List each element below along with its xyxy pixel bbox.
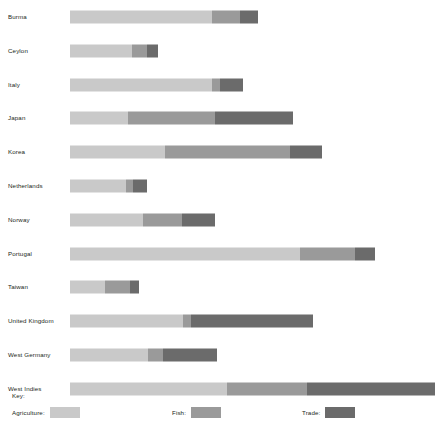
bar-segment-agriculture — [70, 112, 128, 125]
bar-row-label: Taiwan — [8, 283, 66, 291]
bar-segment-agriculture — [70, 349, 148, 362]
stacked-bar-chart: BurmaCeylonItalyJapanKoreaNetherlandsNor… — [0, 0, 435, 434]
bar-row-label: Netherlands — [8, 182, 66, 190]
bar-segment-fish — [126, 180, 133, 193]
bar-row-italy: Italy — [0, 68, 435, 102]
bar-segment-agriculture — [70, 11, 212, 24]
bar-segment-agriculture — [70, 44, 132, 57]
bar-segment-trade — [290, 146, 322, 159]
bar-row-japan: Japan — [0, 101, 435, 135]
bar-track — [70, 315, 313, 328]
bar-segment-trade — [355, 247, 375, 260]
bar-segment-trade — [215, 112, 293, 125]
legend-swatch-trade — [325, 407, 355, 418]
bar-segment-fish — [212, 11, 240, 24]
bar-segment-agriculture — [70, 146, 165, 159]
bar-track — [70, 281, 139, 294]
bar-row-united-kingdom: United Kingdom — [0, 304, 435, 338]
chart-legend: Key: Agriculture: Fish: Trade: — [0, 390, 435, 434]
bar-segment-agriculture — [70, 247, 300, 260]
bar-segment-agriculture — [70, 78, 212, 91]
bar-segment-agriculture — [70, 315, 183, 328]
bar-row-portugal: Portugal — [0, 237, 435, 271]
bar-segment-trade — [220, 78, 243, 91]
bar-row-label: United Kingdom — [8, 317, 66, 325]
bar-row-norway: Norway — [0, 203, 435, 237]
bar-segment-fish — [128, 112, 215, 125]
bar-track — [70, 146, 322, 159]
bar-row-label: Korea — [8, 148, 66, 156]
legend-entry-trade: Trade: — [302, 407, 355, 418]
bar-segment-fish — [183, 315, 191, 328]
bar-segment-fish — [148, 349, 163, 362]
bar-row-label: West Germany — [8, 351, 66, 359]
bar-row-label: Ceylon — [8, 47, 66, 55]
bar-track — [70, 78, 243, 91]
bar-row-west-germany: West Germany — [0, 338, 435, 372]
bar-segment-agriculture — [70, 281, 105, 294]
bar-segment-trade — [133, 180, 147, 193]
bar-segment-fish — [212, 78, 220, 91]
bar-segment-fish — [132, 44, 147, 57]
legend-swatch-fish — [191, 407, 221, 418]
bar-track — [70, 11, 258, 24]
bar-segment-agriculture — [70, 180, 126, 193]
bar-segment-trade — [182, 213, 215, 226]
legend-label-agriculture: Agriculture: — [12, 409, 45, 416]
bar-row-taiwan: Taiwan — [0, 270, 435, 304]
legend-swatch-agriculture — [50, 407, 80, 418]
bar-row-korea: Korea — [0, 135, 435, 169]
bar-row-ceylon: Ceylon — [0, 34, 435, 68]
bar-segment-fish — [105, 281, 130, 294]
bar-segment-fish — [300, 247, 355, 260]
bar-row-netherlands: Netherlands — [0, 169, 435, 203]
bar-segment-trade — [130, 281, 139, 294]
bar-segment-trade — [240, 11, 258, 24]
bar-track — [70, 44, 158, 57]
bar-segment-agriculture — [70, 213, 143, 226]
legend-entry-agriculture: Agriculture: — [12, 407, 80, 418]
bar-row-label: Norway — [8, 216, 66, 224]
legend-entry-fish: Fish: — [172, 407, 221, 418]
bar-row-burma: Burma — [0, 0, 435, 34]
bar-row-label: Portugal — [8, 249, 66, 257]
bar-track — [70, 247, 375, 260]
legend-title: Key: — [12, 392, 25, 399]
bar-segment-trade — [191, 315, 313, 328]
bar-segment-trade — [147, 44, 158, 57]
bar-track — [70, 112, 293, 125]
bar-row-label: Japan — [8, 114, 66, 122]
legend-label-trade: Trade: — [302, 409, 320, 416]
bar-row-label: Burma — [8, 13, 66, 21]
bar-segment-fish — [165, 146, 290, 159]
bar-track — [70, 349, 217, 362]
bar-row-label: Italy — [8, 80, 66, 88]
bar-segment-trade — [163, 349, 217, 362]
bar-segment-fish — [143, 213, 182, 226]
bar-track — [70, 180, 147, 193]
legend-label-fish: Fish: — [172, 409, 186, 416]
bar-track — [70, 213, 215, 226]
